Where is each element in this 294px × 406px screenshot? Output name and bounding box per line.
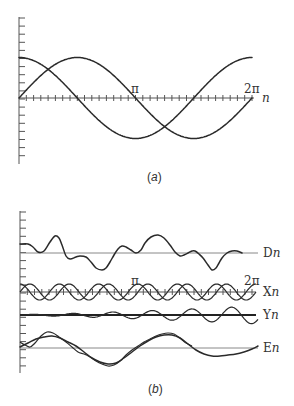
yn-label: Yn — [262, 308, 279, 322]
panel-b-caption: (b) — [148, 382, 163, 396]
dn-label: Dn — [263, 246, 280, 260]
xn-label: Xn — [263, 285, 279, 299]
en-smooth-curve — [20, 335, 258, 364]
panel-a-y-ticks — [19, 18, 25, 156]
en-label: En — [263, 341, 280, 355]
panel-a-x-axis-label: n — [262, 91, 270, 105]
panel-b-2pi-label: 2π — [244, 274, 260, 288]
panel-b-pi-label: π — [131, 274, 139, 288]
panel-a-caption: (a) — [147, 170, 162, 184]
panel-a-pi-label: π — [131, 82, 139, 96]
panel-a: π 2π n (a) — [19, 17, 270, 184]
figure: π 2π n (a) π 2π Dn Xn Yn En (b) — [0, 0, 294, 406]
panel-a-2pi-label: 2π — [244, 82, 260, 96]
panel-b: π 2π Dn Xn Yn En (b) — [20, 211, 280, 396]
